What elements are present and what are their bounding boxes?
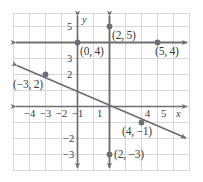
axes [16,16,187,168]
point-label-0-4: (0, 4) [80,46,104,58]
y-tick-neg3: −3 [63,150,74,161]
dot-2-n3 [107,152,113,158]
y-tick-3: 3 [67,54,72,65]
y-tick-5: 5 [67,22,72,33]
x-tick-1: 1 [97,109,102,120]
x-tick-neg3: −3 [40,109,51,120]
x-axis-label: x [176,109,181,120]
y-tick-2: 2 [67,70,72,81]
y-axis-label: y [82,15,87,26]
grid-lines [14,14,190,171]
graph-canvas [0,0,203,182]
dot-n3-2 [43,72,49,78]
point-label-5-4: (5, 4) [155,46,179,58]
y-tick-neg2: −2 [63,134,74,145]
point-label-4-n1: (4, −1) [122,126,152,138]
diagonal-line [17,66,186,139]
x-tick-4: 4 [145,109,150,120]
point-label-2-n3: (2, −3) [114,149,144,161]
x-tick-neg1: −1 [72,109,83,120]
point-label-n3-2: (−3, 2) [13,79,43,91]
x-tick-neg2: −2 [56,109,67,120]
x-tick-5: 5 [161,109,166,120]
point-label-2-5: (2, 5) [112,30,136,42]
coordinate-plane-figure: (2, 5) (0, 4) (5, 4) (−3, 2) (4, −1) (2,… [0,0,203,182]
x-tick-neg4: −4 [24,109,35,120]
